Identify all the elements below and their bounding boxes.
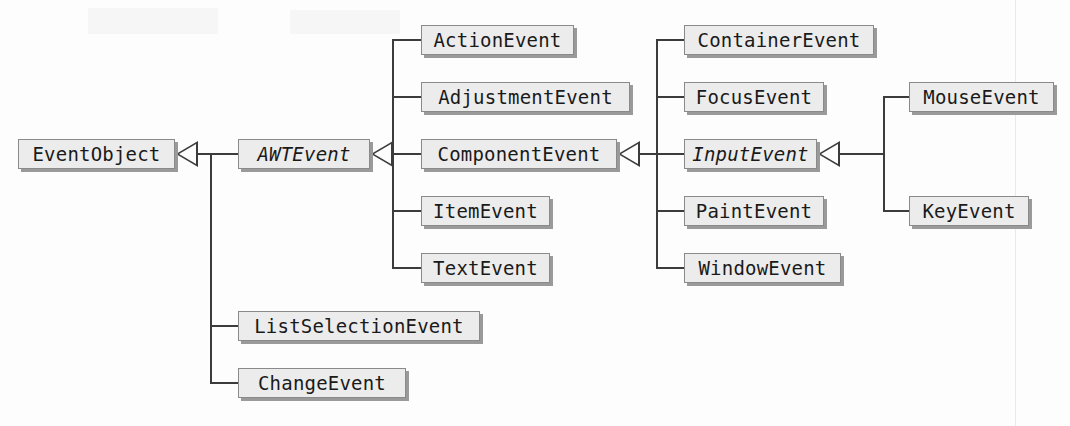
- class-box-itemevent[interactable]: ItemEvent: [421, 196, 550, 226]
- connector-eventobject-trunk: [210, 153, 212, 383]
- connector-inputevent-trunk: [883, 96, 885, 211]
- class-box-label: FocusEvent: [689, 88, 819, 107]
- class-box-label: WindowEvent: [691, 259, 833, 278]
- class-box-actionevent[interactable]: ActionEvent: [421, 25, 574, 55]
- connector-awtevent-to-textevent: [392, 267, 422, 269]
- class-box-label: ItemEvent: [426, 202, 545, 221]
- connector-componentevent-trunk: [656, 39, 658, 268]
- class-box-label: InputEvent: [685, 145, 815, 164]
- connector-eventobject-to-listselectionevent: [210, 325, 239, 327]
- class-box-focusevent[interactable]: FocusEvent: [684, 82, 824, 112]
- class-box-windowevent[interactable]: WindowEvent: [684, 253, 841, 283]
- connector-componentevent-to-paintevent: [656, 210, 685, 212]
- class-box-label: EventObject: [25, 145, 167, 164]
- class-box-changeevent[interactable]: ChangeEvent: [238, 368, 406, 398]
- connector-eventobject-to-changeevent: [210, 382, 239, 384]
- class-box-eventobject[interactable]: EventObject: [18, 139, 175, 169]
- class-diagram-canvas: EventObjectAWTEventActionEventAdjustment…: [0, 0, 1070, 426]
- class-box-label: ChangeEvent: [251, 374, 393, 393]
- class-box-label: MouseEvent: [916, 88, 1046, 107]
- class-box-label: ComponentEvent: [431, 145, 608, 164]
- class-box-mouseevent[interactable]: MouseEvent: [909, 82, 1054, 112]
- class-box-inputevent[interactable]: InputEvent: [684, 139, 817, 169]
- class-box-keyevent[interactable]: KeyEvent: [909, 196, 1029, 226]
- class-box-paintevent[interactable]: PaintEvent: [684, 196, 824, 226]
- class-box-textevent[interactable]: TextEvent: [421, 253, 550, 283]
- class-box-label: AdjustmentEvent: [431, 88, 620, 107]
- connector-awtevent-stem: [392, 153, 422, 155]
- class-box-listselectionevent[interactable]: ListSelectionEvent: [238, 311, 480, 341]
- connector-awtevent-trunk: [392, 39, 394, 268]
- connector-awtevent-to-actionevent: [392, 39, 422, 41]
- class-box-label: ContainerEvent: [691, 31, 868, 50]
- connector-awtevent-to-itemevent: [392, 210, 422, 212]
- connector-awtevent-to-adjustmentevent: [392, 96, 422, 98]
- connector-inputevent-stem: [839, 153, 885, 155]
- class-box-label: KeyEvent: [915, 202, 1022, 221]
- class-box-label: TextEvent: [426, 259, 545, 278]
- class-box-label: ActionEvent: [426, 31, 568, 50]
- connector-inputevent-to-mouseevent: [883, 96, 910, 98]
- class-box-adjustmentevent[interactable]: AdjustmentEvent: [421, 82, 630, 112]
- class-box-containerevent[interactable]: ContainerEvent: [684, 25, 874, 55]
- connector-componentevent-to-windowevent: [656, 267, 685, 269]
- class-box-label: ListSelectionEvent: [247, 317, 471, 336]
- class-box-componentevent[interactable]: ComponentEvent: [421, 139, 617, 169]
- scan-artifact: [290, 10, 400, 34]
- connector-componentevent-to-focusevent: [656, 96, 685, 98]
- connector-inputevent-to-keyevent: [883, 210, 910, 212]
- class-box-label: PaintEvent: [689, 202, 819, 221]
- connector-componentevent-to-containerevent: [656, 39, 685, 41]
- scan-artifact: [88, 8, 218, 34]
- class-box-label: AWTEvent: [250, 145, 357, 164]
- class-box-awtevent[interactable]: AWTEvent: [238, 139, 370, 169]
- connector-eventobject-stem: [197, 153, 239, 155]
- connector-componentevent-stem: [639, 153, 685, 155]
